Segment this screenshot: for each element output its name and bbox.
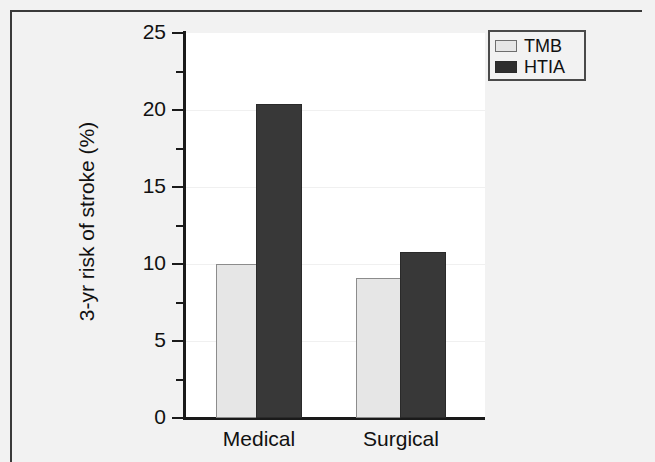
legend-entry-htia: HTIA bbox=[495, 57, 579, 77]
y-axis-title: 3-yr risk of stroke (%) bbox=[76, 72, 97, 372]
bar-medical-htia bbox=[256, 104, 302, 418]
gridline-15 bbox=[186, 187, 485, 188]
legend: TMB HTIA bbox=[488, 30, 586, 81]
y-tick-label-15: 15 bbox=[114, 175, 166, 196]
y-tick-label-10: 10 bbox=[114, 252, 166, 273]
x-axis-label-medical: Medical bbox=[199, 428, 319, 449]
y-tick-minor-17_5 bbox=[176, 148, 183, 150]
y-tick-major-10 bbox=[172, 263, 183, 265]
y-axis-line bbox=[183, 31, 186, 420]
x-axis-label-surgical: Surgical bbox=[341, 428, 461, 449]
y-tick-minor-7_5 bbox=[176, 302, 183, 304]
y-tick-major-20 bbox=[172, 109, 183, 111]
legend-entry-tmb: TMB bbox=[495, 36, 579, 56]
y-tick-major-0 bbox=[172, 417, 183, 419]
y-tick-major-15 bbox=[172, 186, 183, 188]
legend-swatch-htia-icon bbox=[495, 61, 517, 73]
bar-surgical-tmb bbox=[356, 278, 402, 418]
y-tick-minor-2_5 bbox=[176, 379, 183, 381]
plot-area bbox=[186, 33, 485, 418]
y-tick-major-5 bbox=[172, 340, 183, 342]
figure-frame: 25 20 15 10 5 0 3-yr risk of stroke (%) … bbox=[0, 0, 655, 462]
y-axis-tick-labels: 25 20 15 10 5 0 bbox=[110, 0, 166, 462]
y-tick-major-25 bbox=[172, 32, 183, 34]
legend-label-tmb: TMB bbox=[524, 37, 562, 55]
y-tick-minor-22_5 bbox=[176, 71, 183, 73]
bar-surgical-htia bbox=[400, 252, 446, 418]
y-tick-label-25: 25 bbox=[114, 21, 166, 42]
legend-label-htia: HTIA bbox=[524, 58, 565, 76]
y-tick-label-20: 20 bbox=[114, 98, 166, 119]
y-tick-minor-12_5 bbox=[176, 225, 183, 227]
legend-swatch-tmb-icon bbox=[495, 40, 517, 52]
gridline-20 bbox=[186, 110, 485, 111]
y-tick-label-0: 0 bbox=[114, 406, 166, 427]
bar-chart: 25 20 15 10 5 0 3-yr risk of stroke (%) … bbox=[0, 0, 655, 462]
y-tick-label-5: 5 bbox=[114, 329, 166, 350]
